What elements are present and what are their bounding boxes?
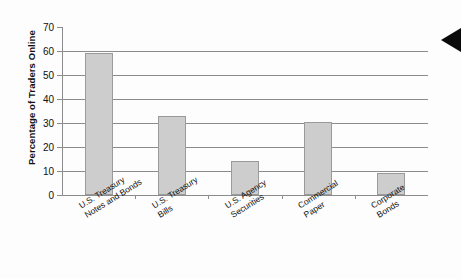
y-tick-label-20: 20 (43, 142, 54, 153)
tick-mark-10 (57, 171, 62, 172)
y-tick-label-60: 60 (43, 46, 54, 57)
tick-mark-40 (57, 99, 62, 100)
bar-chart-figure: Percentage of Traders Online 01020304050… (0, 0, 461, 279)
tick-mark-20 (57, 147, 62, 148)
x-tick-0 (135, 195, 136, 199)
x-tick-2 (282, 195, 283, 199)
y-tick-label-10: 10 (43, 166, 54, 177)
gridline-30 (62, 123, 428, 124)
y-tick-label-50: 50 (43, 70, 54, 81)
left-pointing-triangle-icon (441, 28, 461, 52)
tick-mark-70 (57, 27, 62, 28)
x-tick-3 (355, 195, 356, 199)
gridline-20 (62, 147, 428, 148)
tick-mark-50 (57, 75, 62, 76)
bar-0 (85, 53, 113, 195)
plot-area: 010203040506070 (62, 27, 428, 195)
y-tick-label-70: 70 (43, 22, 54, 33)
tick-mark-30 (57, 123, 62, 124)
gridline-50 (62, 75, 428, 76)
tick-mark-60 (57, 51, 62, 52)
y-tick-label-30: 30 (43, 118, 54, 129)
y-tick-label-0: 0 (48, 190, 54, 201)
gridline-40 (62, 99, 428, 100)
tick-mark-0 (57, 195, 62, 196)
y-tick-label-40: 40 (43, 94, 54, 105)
y-axis-title: Percentage of Traders Online (26, 3, 37, 193)
x-tick-1 (208, 195, 209, 199)
gridline-60 (62, 51, 428, 52)
